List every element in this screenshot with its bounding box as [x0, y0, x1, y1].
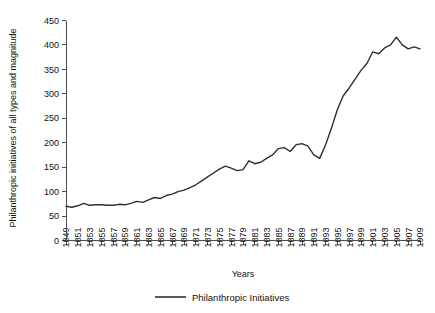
chart-legend: Philanthropic Initiatives — [155, 292, 289, 303]
x-tick-label: 1853 — [85, 227, 95, 247]
x-tick-label: 1867 — [168, 227, 178, 247]
y-tick-label: 250 — [44, 113, 59, 123]
x-tick-label: 1857 — [109, 227, 119, 247]
x-tick-label: 1899 — [356, 227, 366, 247]
x-tick-label: 1909 — [415, 227, 425, 247]
x-tick-label: 1879 — [238, 227, 248, 247]
series-line-philanthropic-initiatives — [66, 37, 420, 207]
x-tick-label: 1871 — [191, 227, 201, 247]
y-tick-label: 350 — [44, 65, 59, 75]
x-tick-label: 1873 — [203, 227, 213, 247]
x-tick-label: 1875 — [215, 227, 225, 247]
x-tick-label: 1885 — [274, 227, 284, 247]
x-tick-label: 1861 — [132, 227, 142, 247]
x-tick-label: 1897 — [345, 227, 355, 247]
x-axis-title: Years — [232, 269, 255, 279]
chart-container: Philanthropic initiatives of all types a… — [0, 0, 435, 313]
x-tick-label: 1851 — [73, 227, 83, 247]
legend-label-philanthropic-initiatives: Philanthropic Initiatives — [192, 292, 289, 303]
x-tick-label: 1889 — [297, 227, 307, 247]
x-tick-label: 1891 — [309, 227, 319, 247]
x-tick-label: 1855 — [97, 227, 107, 247]
x-tick-label: 1859 — [120, 227, 130, 247]
line-chart: Philanthropic initiatives of all types a… — [0, 0, 435, 313]
y-tick-label: 0 — [54, 236, 59, 246]
x-tick-label: 1895 — [333, 227, 343, 247]
x-tick-label: 1903 — [380, 227, 390, 247]
x-tick-label: 1869 — [179, 227, 189, 247]
y-axis-ticks: 050100150200250300350400450 — [44, 16, 66, 246]
x-tick-label: 1883 — [262, 227, 272, 247]
x-tick-label: 1877 — [227, 227, 237, 247]
x-tick-label: 1881 — [250, 227, 260, 247]
y-axis-title: Philanthropic initiatives of all types a… — [8, 28, 18, 227]
x-tick-label: 1907 — [404, 227, 414, 247]
x-tick-label: 1863 — [144, 227, 154, 247]
y-tick-label: 100 — [44, 187, 59, 197]
x-tick-label: 1887 — [286, 227, 296, 247]
x-tick-label: 1893 — [321, 227, 331, 247]
x-tick-label: 1865 — [156, 227, 166, 247]
x-tick-label: 1905 — [392, 227, 402, 247]
y-tick-label: 150 — [44, 162, 59, 172]
x-axis-ticks: 1849185118531855185718591861186318651867… — [61, 227, 425, 247]
y-tick-label: 400 — [44, 40, 59, 50]
y-tick-label: 300 — [44, 89, 59, 99]
y-tick-label: 200 — [44, 138, 59, 148]
y-tick-label: 50 — [49, 211, 59, 221]
x-tick-label: 1901 — [368, 227, 378, 247]
y-tick-label: 450 — [44, 16, 59, 26]
